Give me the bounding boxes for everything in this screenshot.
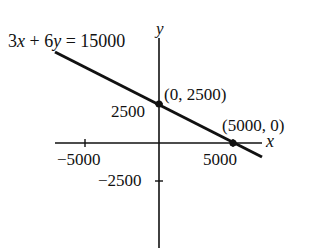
equation-mid: + 6 — [25, 31, 53, 51]
point-label-5000-0: (5000, 0) — [222, 117, 284, 134]
x-axis-label: x — [266, 133, 274, 150]
x-tick-label-5000: 5000 — [203, 151, 237, 168]
y-tick-label-2500: 2500 — [111, 103, 145, 120]
point-5000-0 — [229, 139, 236, 146]
x-tick-label-neg5000: −5000 — [57, 151, 101, 168]
equation-prefix: 3 — [8, 31, 17, 51]
point-0-2500 — [155, 100, 162, 107]
point-label-0-2500: (0, 2500) — [164, 86, 226, 103]
equation-label: 3x + 6y = 15000 — [8, 33, 125, 50]
equation-suffix: = 15000 — [61, 31, 125, 51]
equation-var-y: y — [53, 31, 61, 51]
y-tick-label-neg2500: −2500 — [98, 172, 142, 189]
equation-var-x: x — [17, 31, 25, 51]
y-axis-label: y — [156, 20, 164, 37]
